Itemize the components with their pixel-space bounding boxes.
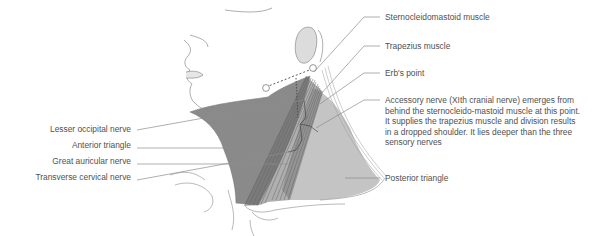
label-posterior-triangle: Posterior triangle	[385, 173, 448, 184]
landmark-circle-angle	[263, 85, 270, 92]
label-sternocleidomastoid-muscle: Sternocleidomastoid muscle	[385, 12, 490, 23]
label-transverse-cervical-nerve: Transverse cervical nerve	[0, 172, 131, 183]
label-anterior-triangle: Anterior triangle	[0, 140, 131, 151]
head-outline	[184, 8, 272, 110]
label-trapezius-muscle: Trapezius muscle	[385, 41, 450, 52]
label-lesser-occipital-nerve: Lesser occipital nerve	[0, 124, 131, 135]
ear-outline	[295, 27, 323, 63]
label-great-auricular-nerve: Great auricular nerve	[0, 156, 131, 167]
label-erbs-point: Erb's point	[385, 68, 424, 79]
label-accessory-nerve: Accessory nerve (XIth cranial nerve) eme…	[385, 95, 581, 148]
